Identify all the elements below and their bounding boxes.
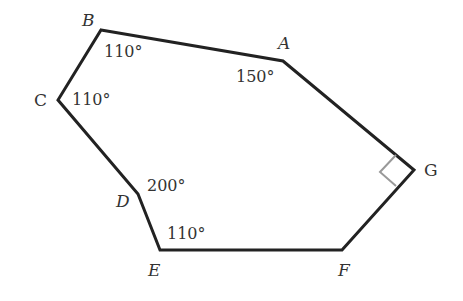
- polygon-outline: [58, 30, 414, 250]
- vertex-label-b: B: [82, 12, 95, 29]
- angle-label-d: 200°: [147, 178, 186, 194]
- vertex-label-d: D: [116, 193, 130, 210]
- angle-label-c: 110°: [72, 92, 111, 108]
- vertex-label-e: E: [148, 262, 160, 279]
- angle-label-b: 110°: [104, 44, 143, 60]
- angle-label-e: 110°: [167, 226, 206, 242]
- vertex-label-c: C: [34, 92, 47, 109]
- vertex-label-a: A: [278, 35, 290, 52]
- angle-label-a: 150°: [236, 69, 275, 85]
- vertex-label-f: F: [338, 262, 350, 279]
- right-angle-marker: [380, 155, 396, 186]
- heptagon-diagram: B A C D E F G 110° 150° 110° 200° 110°: [0, 0, 463, 301]
- vertex-label-g: G: [424, 162, 438, 179]
- polygon-figure: [0, 0, 463, 301]
